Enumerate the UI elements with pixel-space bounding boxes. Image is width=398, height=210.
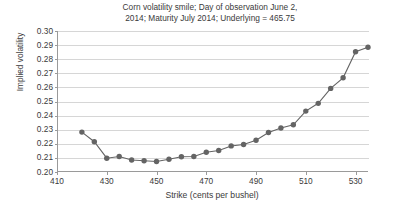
data-point xyxy=(79,129,84,134)
y-tick-label: 0.26 xyxy=(17,82,53,92)
chart-root: Corn volatility smile; Day of observatio… xyxy=(0,0,398,210)
y-tick-label: 0.25 xyxy=(17,96,53,106)
y-tick-label: 0.23 xyxy=(17,124,53,134)
data-point xyxy=(353,49,358,54)
x-tick-mark xyxy=(157,172,158,175)
data-point xyxy=(179,154,184,159)
data-point xyxy=(117,154,122,159)
x-tick-label: 490 xyxy=(236,176,276,186)
data-point xyxy=(365,45,370,50)
y-tick-label: 0.30 xyxy=(17,26,53,36)
data-point xyxy=(154,159,159,164)
x-tick-label: 430 xyxy=(87,176,127,186)
data-point xyxy=(328,86,333,91)
data-point xyxy=(191,154,196,159)
data-point xyxy=(104,155,109,160)
x-tick-mark xyxy=(206,172,207,175)
y-tick-label: 0.29 xyxy=(17,40,53,50)
data-point xyxy=(228,143,233,148)
data-point xyxy=(129,157,134,162)
series-layer xyxy=(57,31,368,172)
y-tick-label: 0.24 xyxy=(17,110,53,120)
data-point xyxy=(166,157,171,162)
x-tick-label: 410 xyxy=(37,176,77,186)
data-point xyxy=(303,108,308,113)
x-tick-mark xyxy=(306,172,307,175)
y-tick-label: 0.28 xyxy=(17,54,53,64)
y-tick-label: 0.22 xyxy=(17,138,53,148)
x-tick-mark xyxy=(256,172,257,175)
x-tick-label: 450 xyxy=(137,176,177,186)
x-tick-mark xyxy=(57,172,58,175)
data-point xyxy=(253,138,258,143)
data-point xyxy=(278,125,283,130)
data-point xyxy=(92,139,97,144)
data-point xyxy=(291,122,296,127)
data-point xyxy=(340,75,345,80)
x-tick-label: 470 xyxy=(186,176,226,186)
data-point xyxy=(204,150,209,155)
data-point xyxy=(266,130,271,135)
x-tick-label: 530 xyxy=(336,176,376,186)
data-point xyxy=(216,148,221,153)
x-tick-mark xyxy=(107,172,108,175)
chart-title: Corn volatility smile; Day of observatio… xyxy=(60,2,360,24)
y-tick-label: 0.21 xyxy=(17,152,53,162)
x-axis-title: Strike (cents per bushel) xyxy=(57,190,367,200)
series-line xyxy=(82,47,368,161)
y-tick-label: 0.27 xyxy=(17,68,53,78)
x-tick-mark xyxy=(356,172,357,175)
data-point xyxy=(141,158,146,163)
y-tick-label: 0.20 xyxy=(17,167,53,177)
data-point xyxy=(241,142,246,147)
x-tick-label: 510 xyxy=(286,176,326,186)
data-point xyxy=(316,101,321,106)
